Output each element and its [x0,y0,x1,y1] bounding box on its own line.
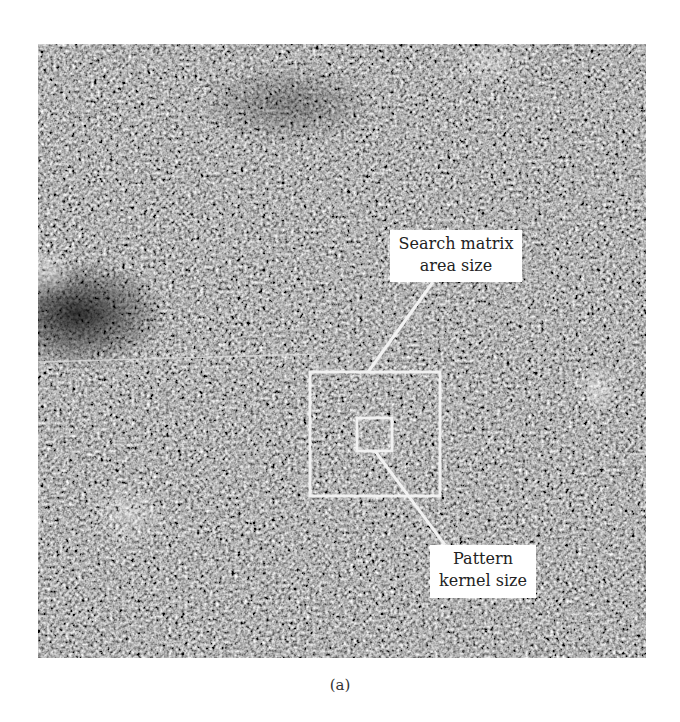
pattern-kernel-label-line2: kernel size [434,570,532,592]
pattern-kernel-label: Pattern kernel size [430,545,536,598]
search-matrix-label-line2: area size [394,255,518,277]
pattern-kernel-label-line1: Pattern [434,548,532,570]
figure-caption: (a) [0,676,680,694]
micrograph-image [38,44,646,658]
micrograph-texture [38,44,646,658]
search-matrix-label: Search matrix area size [390,230,522,282]
search-matrix-label-line1: Search matrix [394,233,518,255]
